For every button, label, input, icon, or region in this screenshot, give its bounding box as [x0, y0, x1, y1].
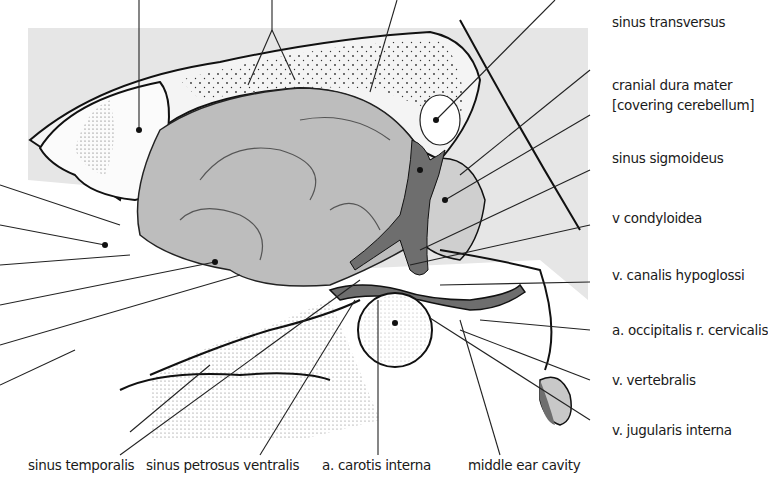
label-a-carotis-interna: a. carotis interna: [322, 457, 431, 474]
label-sinus-transversus: sinus transversus: [612, 14, 725, 31]
label-a-occipitalis: a. occipitalis r. cervicalis: [612, 322, 768, 339]
label-v-condyloidea: v condyloidea: [612, 210, 702, 227]
label-v-jugularis-interna: v. jugularis interna: [612, 422, 732, 439]
label-v-vertebralis: v. vertebralis: [612, 372, 696, 389]
label-sinus-petrosus-ventralis: sinus petrosus ventralis: [146, 457, 299, 474]
label-cranial-dura-mater: cranial dura mater: [612, 77, 732, 94]
label-covering-cerebellum: [covering cerebellum]: [612, 97, 754, 114]
label-v-canalis-hypoglossi: v. canalis hypoglossi: [612, 267, 744, 284]
label-sinus-sigmoideus: sinus sigmoideus: [612, 150, 723, 167]
cerebrum: [138, 88, 426, 286]
label-sinus-temporalis: sinus temporalis: [28, 457, 134, 474]
middle-ear-dot-fill: [360, 295, 430, 365]
label-middle-ear-cavity: middle ear cavity: [468, 457, 580, 474]
